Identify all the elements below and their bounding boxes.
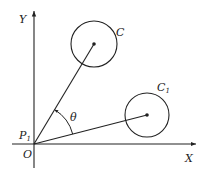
- point-p1-label: P1: [18, 129, 31, 143]
- circle-c-main: C: [116, 26, 125, 39]
- angle-theta-label: θ: [70, 111, 77, 124]
- point-p1-subscript: 1: [26, 135, 30, 143]
- circle-c1-label: C1: [157, 81, 170, 95]
- circle-c1-subscript: 1: [165, 87, 169, 95]
- circle-c-label: C: [116, 26, 125, 39]
- origin-label: O: [23, 148, 32, 161]
- radius-line-o-to-c: [34, 44, 94, 144]
- geometry-diagram: Y X O P1 C C1 θ: [0, 0, 209, 172]
- y-axis-label: Y: [19, 13, 28, 26]
- x-axis-label: X: [184, 152, 194, 165]
